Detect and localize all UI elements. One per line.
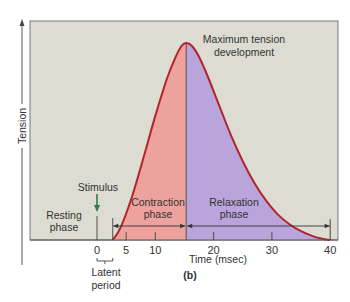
latent-period-bracket bbox=[97, 258, 113, 264]
twitch-diagram: Tension 0510203040 Maximum tension devel… bbox=[0, 0, 350, 302]
relaxation-label-line2: phase bbox=[220, 208, 249, 220]
x-axis-label: Time (msec) bbox=[189, 253, 247, 265]
resting-label-line1: Resting bbox=[46, 209, 82, 221]
panel-label: (b) bbox=[183, 269, 196, 281]
y-axis-label: Tension bbox=[16, 108, 28, 144]
contraction-label-line1: Contraction bbox=[131, 196, 185, 208]
x-tick-label: 5 bbox=[123, 244, 129, 256]
latent-label-line1: Latent bbox=[91, 266, 120, 278]
y-axis-arrow-icon bbox=[20, 19, 25, 26]
peak-label-line1: Maximum tension bbox=[203, 33, 285, 45]
x-tick-label: 40 bbox=[324, 244, 336, 256]
resting-label-line2: phase bbox=[50, 221, 79, 233]
relaxation-label-line1: Relaxation bbox=[209, 196, 259, 208]
x-tick-label: 0 bbox=[94, 244, 100, 256]
stimulus-label: Stimulus bbox=[78, 181, 118, 193]
latent-label-line2: period bbox=[91, 279, 120, 291]
x-tick-label: 30 bbox=[266, 244, 278, 256]
x-tick-label: 10 bbox=[149, 244, 161, 256]
peak-label-line2: development bbox=[214, 46, 274, 58]
contraction-label-line2: phase bbox=[144, 208, 173, 220]
